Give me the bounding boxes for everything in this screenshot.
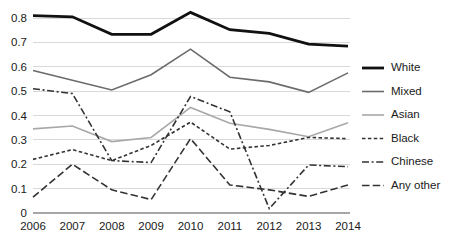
y-tick-label: 0.4 [11,110,28,122]
y-tick-label: 0.8 [11,12,27,24]
x-tick-label-2012: 2012 [256,220,282,232]
x-tick-label-2008: 2008 [99,220,125,232]
legend-label: Chinese [391,155,433,167]
y-tick-label: 0 [21,207,27,219]
x-tick-label-2014: 2014 [335,220,361,232]
x-tick-label-2009: 2009 [138,220,164,232]
y-tick-label: 0.2 [11,158,27,170]
legend-label: Asian [391,108,420,120]
y-tick-label: 0.1 [11,183,27,195]
x-tick-label-2010: 2010 [178,220,204,232]
chart-container: 00.10.20.30.40.50.60.70.8 20062007200820… [0,0,450,246]
legend-label: Any other [391,179,440,191]
y-tick-label: 0.6 [11,61,27,73]
legend-label: White [391,61,420,73]
legend-label: Black [391,132,419,144]
y-tick-label: 0.5 [11,85,27,97]
x-tick-label-2006: 2006 [20,220,46,232]
y-axis-tick-labels: 00.10.20.30.40.50.60.70.8 [11,12,28,219]
legend-label: Mixed [391,85,422,97]
y-tick-label: 0.3 [11,134,27,146]
x-tick-label-2011: 2011 [218,220,243,232]
y-tick-label: 0.7 [11,36,27,48]
x-axis-tick-labels: 200620072008200920102011201220132014 [20,220,361,232]
x-tick-label-2007: 2007 [60,220,86,232]
chart-background [0,0,450,246]
x-tick-label-2013: 2013 [296,220,322,232]
line-chart: 00.10.20.30.40.50.60.70.8 20062007200820… [0,0,450,246]
